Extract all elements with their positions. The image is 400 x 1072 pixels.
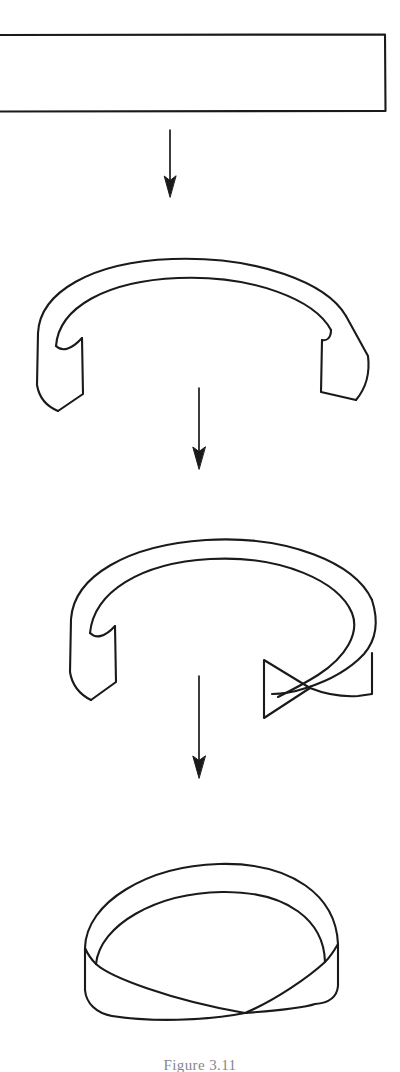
page-background xyxy=(0,0,400,1072)
figure-caption: Figure 3.11 xyxy=(0,1057,400,1072)
figure-canvas xyxy=(0,0,400,1072)
mobius-construction-figure xyxy=(0,0,400,1072)
